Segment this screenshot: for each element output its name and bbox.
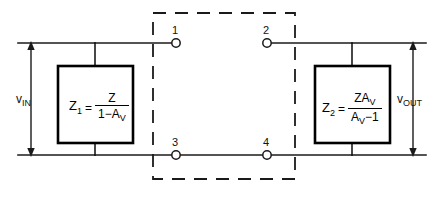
formula-z2-den-prefix: A <box>351 110 359 124</box>
input-voltage-label: vIN <box>16 93 31 108</box>
node-label-1: 1 <box>172 25 178 36</box>
formula-z1-numerator: Z <box>105 92 118 105</box>
formula-z2-numerator: ZAV <box>351 92 378 108</box>
formula-z2-denominator: AV−1 <box>348 108 382 126</box>
formula-z1-symbol: Z <box>69 98 77 113</box>
node-label-4: 4 <box>263 137 269 148</box>
formula-z2-equals: = <box>338 103 345 115</box>
node-terminal-3 <box>172 151 180 159</box>
formula-z2-lhs: Z2 <box>322 101 335 118</box>
node-label-3: 3 <box>172 137 178 148</box>
node-terminal-2 <box>263 39 271 47</box>
formula-z2-subscript: 2 <box>330 108 335 118</box>
formula-z1-den-subscript: V <box>120 113 126 123</box>
node-terminal-1 <box>172 39 180 47</box>
formula-z2-symbol: Z <box>322 100 330 115</box>
formula-z1: Z1 = Z 1−AV <box>69 92 129 123</box>
output-voltage-subscript: OUT <box>403 98 422 108</box>
formula-z2-den-suffix: −1 <box>365 110 379 124</box>
formula-z2-fraction: ZAV AV−1 <box>348 92 382 127</box>
circuit-diagram: 1 2 3 4 vIN vOUT Z1 = Z 1−AV Z2 = ZAV AV… <box>0 0 444 199</box>
formula-z1-equals: = <box>85 102 92 114</box>
formula-z1-lhs: Z1 <box>69 99 82 116</box>
formula-z2: Z2 = ZAV AV−1 <box>322 92 382 127</box>
node-label-2: 2 <box>263 25 269 36</box>
formula-z2-num-prefix: ZA <box>354 91 369 105</box>
formula-z1-den-prefix: 1−A <box>98 107 120 121</box>
formula-z1-fraction: Z 1−AV <box>95 92 129 123</box>
formula-z1-denominator: 1−AV <box>95 105 129 123</box>
formula-z1-subscript: 1 <box>77 106 82 116</box>
input-voltage-subscript: IN <box>22 98 31 108</box>
output-voltage-label: vOUT <box>397 93 422 108</box>
formula-z2-num-subscript: V <box>370 97 376 107</box>
node-terminal-4 <box>263 151 271 159</box>
